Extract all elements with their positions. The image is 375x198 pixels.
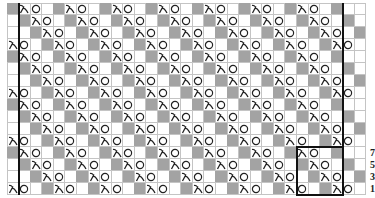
chart-cell-yarn-over (181, 15, 193, 27)
decrease-icon (112, 4, 122, 14)
yarn-over-icon (77, 148, 87, 158)
chart-cell-yarn-over (192, 27, 204, 39)
decrease-icon (65, 52, 75, 62)
chart-cell-no-stitch (181, 135, 193, 147)
chart-cell-no-stitch (169, 75, 181, 87)
chart-cell-no-stitch (215, 27, 227, 39)
chart-cell-no-stitch (297, 63, 309, 75)
chart-cell-knit (215, 39, 227, 51)
chart-cell-decrease (215, 63, 227, 75)
chart-cell-no-stitch (100, 99, 112, 111)
chart-cell-no-stitch (204, 15, 216, 27)
yarn-over-icon (297, 40, 307, 50)
yarn-over-icon (343, 184, 353, 194)
chart-cell-knit (239, 63, 251, 75)
yarn-over-icon (89, 64, 99, 74)
chart-cell-yarn-over (65, 87, 77, 99)
chart-cell-no-stitch (262, 171, 274, 183)
yarn-over-icon (181, 160, 191, 170)
chart-cell-decrease (134, 123, 146, 135)
chart-cell-knit (262, 183, 274, 195)
chart-cell-no-stitch (123, 171, 135, 183)
row-number-label: 7 (370, 147, 375, 159)
chart-cell-knit (215, 87, 227, 99)
chart-cell-knit (239, 159, 251, 171)
chart-cell-yarn-over (227, 15, 239, 27)
chart-cell-yarn-over (169, 99, 181, 111)
decrease-icon (8, 136, 18, 146)
chart-cell-no-stitch (239, 3, 251, 15)
chart-cell-yarn-over (239, 27, 251, 39)
chart-cell-yarn-over (169, 3, 181, 15)
chart-cell-no-stitch (354, 75, 366, 87)
chart-cell-yarn-over (285, 27, 297, 39)
chart-cell-decrease (227, 123, 239, 135)
chart-cell-no-stitch (215, 171, 227, 183)
decrease-icon (228, 28, 238, 38)
decrease-icon (251, 4, 261, 14)
chart-cell-no-stitch (285, 3, 297, 15)
decrease-icon (216, 64, 226, 74)
chart-cell-knit (262, 87, 274, 99)
chart-cell-knit (181, 51, 193, 63)
chart-cell-yarn-over (53, 75, 65, 87)
chart-cell-yarn-over (88, 63, 100, 75)
chart-cell-knit (19, 27, 31, 39)
chart-cell-no-stitch (192, 99, 204, 111)
decrease-icon (158, 100, 168, 110)
yarn-over-icon (274, 16, 284, 26)
chart-cell-decrease (204, 51, 216, 63)
chart-cell-decrease (250, 99, 262, 111)
chart-cell-decrease (215, 15, 227, 27)
chart-cell-decrease (273, 171, 285, 183)
chart-cell-yarn-over (30, 51, 42, 63)
chart-cell-yarn-over (19, 135, 31, 147)
chart-cell-yarn-over (53, 171, 65, 183)
chart-cell-no-stitch (262, 75, 274, 87)
chart-cell-yarn-over (111, 135, 123, 147)
decrease-icon (193, 184, 203, 194)
chart-cell-yarn-over (111, 39, 123, 51)
yarn-over-icon (181, 64, 191, 74)
yarn-over-icon (123, 100, 133, 110)
yarn-over-icon (320, 64, 330, 74)
decrease-icon (193, 88, 203, 98)
chart-cell-no-stitch (227, 183, 239, 195)
decrease-icon (31, 160, 41, 170)
chart-cell-knit (297, 75, 309, 87)
chart-cell-yarn-over (250, 135, 262, 147)
yarn-over-icon (251, 184, 261, 194)
yarn-over-icon (123, 52, 133, 62)
chart-cell-decrease (123, 159, 135, 171)
chart-cell-yarn-over (123, 3, 135, 15)
chart-cell-knit (134, 51, 146, 63)
chart-cell-no-stitch (123, 75, 135, 87)
chart-cell-knit (204, 123, 216, 135)
yarn-over-icon (332, 76, 342, 86)
chart-cell-knit (76, 87, 88, 99)
chart-cell-decrease (42, 27, 54, 39)
chart-cell-yarn-over (215, 3, 227, 15)
row-number-label: 3 (370, 171, 375, 183)
chart-cell-yarn-over (53, 123, 65, 135)
yarn-over-icon (262, 100, 272, 110)
row-number-label: 5 (370, 159, 375, 171)
decrease-icon (135, 28, 145, 38)
chart-cell-yarn-over (320, 15, 332, 27)
yarn-over-icon (146, 172, 156, 182)
chart-cell-decrease (297, 3, 309, 15)
decrease-icon (285, 40, 295, 50)
chart-cell-decrease (250, 51, 262, 63)
yarn-over-icon (158, 88, 168, 98)
chart-cell-knit (146, 159, 158, 171)
chart-cell-decrease (320, 123, 332, 135)
decrease-icon (320, 28, 330, 38)
chart-cell-no-stitch (134, 87, 146, 99)
decrease-icon (320, 76, 330, 86)
chart-cell-yarn-over (19, 183, 31, 195)
decrease-icon (146, 40, 156, 50)
yarn-over-icon (54, 124, 64, 134)
decrease-icon (123, 64, 133, 74)
chart-cell-yarn-over (146, 171, 158, 183)
chart-cell-knit (354, 135, 366, 147)
